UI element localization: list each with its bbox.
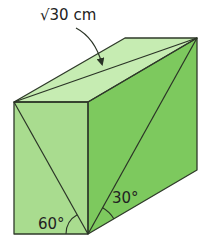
front-angle-label: 60° [38,215,65,233]
side-angle-label: 30° [112,189,139,207]
top-diagonal-label: √30 cm [40,6,96,24]
cuboid-diagram: √30 cm 60° 30° [0,0,211,248]
